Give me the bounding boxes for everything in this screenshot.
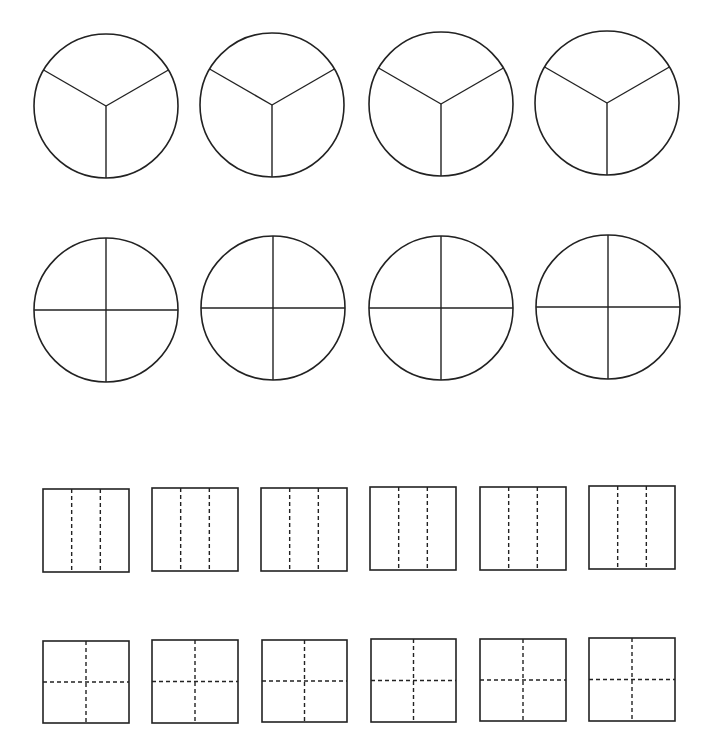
square-outline — [261, 488, 347, 571]
divider-line — [106, 70, 168, 106]
divider-line — [545, 67, 607, 103]
circle-3-part-4 — [535, 31, 679, 175]
divider-line — [379, 68, 441, 104]
square-outline — [480, 487, 566, 570]
square-3-part-3 — [261, 488, 347, 571]
square-3-part-2 — [152, 488, 238, 571]
square-3-part-6 — [589, 486, 675, 569]
circle-3-part-1 — [34, 34, 178, 178]
circle-3-part-2 — [200, 33, 344, 177]
row-circles-thirds — [34, 31, 679, 178]
row-circles-quarters — [34, 235, 680, 382]
square-4-part-2 — [152, 640, 238, 723]
divider-line — [210, 69, 272, 105]
circle-4-part-3 — [369, 236, 513, 380]
square-4-part-3 — [262, 640, 347, 722]
circle-4-part-4 — [536, 235, 680, 379]
square-3-part-1 — [43, 489, 129, 572]
square-4-part-1 — [43, 641, 129, 723]
row-squares-thirds — [43, 486, 675, 572]
circle-4-part-1 — [34, 238, 178, 382]
divider-line — [441, 68, 503, 104]
square-3-part-4 — [370, 487, 456, 570]
square-outline — [589, 486, 675, 569]
divider-line — [272, 69, 334, 105]
divider-line — [607, 67, 669, 103]
circle-3-part-3 — [369, 32, 513, 176]
row-squares-quarters — [43, 638, 675, 723]
square-3-part-5 — [480, 487, 566, 570]
square-outline — [152, 488, 238, 571]
square-outline — [43, 489, 129, 572]
square-4-part-4 — [371, 639, 456, 722]
square-outline — [370, 487, 456, 570]
circle-4-part-2 — [201, 236, 345, 380]
divider-line — [44, 70, 106, 106]
square-4-part-5 — [480, 639, 566, 721]
fraction-worksheet — [0, 0, 711, 750]
square-4-part-6 — [589, 638, 675, 721]
